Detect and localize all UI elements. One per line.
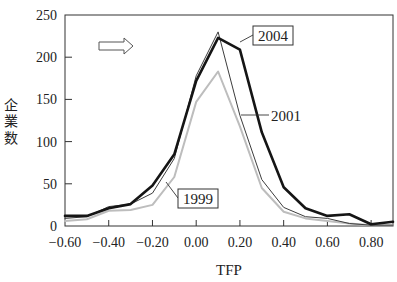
y-axis-title-char-3: 数 bbox=[4, 130, 18, 146]
x-axis: −0.60−0.40−0.200.000.200.400.600.80 bbox=[49, 220, 384, 250]
y-axis-title-char-1: 企 bbox=[4, 97, 18, 113]
annotation-2001: 2001 bbox=[241, 108, 301, 124]
x-tick-label: 0.00 bbox=[184, 235, 209, 250]
y-tick-label: 100 bbox=[36, 135, 57, 150]
series-lines bbox=[65, 32, 393, 225]
y-axis-title-char-2: 業 bbox=[4, 113, 18, 129]
y-tick-label: 250 bbox=[36, 8, 57, 23]
x-axis-title: TFP bbox=[216, 262, 242, 278]
annotation-1999: 1999 bbox=[166, 182, 218, 208]
tfp-distribution-chart: 050100150200250 −0.60−0.40−0.200.000.200… bbox=[0, 0, 397, 282]
x-tick-label: −0.20 bbox=[136, 235, 168, 250]
label-2004: 2004 bbox=[258, 28, 289, 44]
label-2001: 2001 bbox=[271, 108, 301, 124]
series-line-2004 bbox=[65, 38, 393, 225]
y-tick-label: 0 bbox=[50, 219, 57, 234]
x-tick-label: 0.40 bbox=[271, 235, 296, 250]
leader-line-1999 bbox=[166, 182, 178, 198]
x-tick-label: 0.20 bbox=[228, 235, 253, 250]
series-line-2001 bbox=[65, 32, 393, 225]
x-tick-label: −0.60 bbox=[49, 235, 81, 250]
y-tick-label: 50 bbox=[43, 177, 57, 192]
series-line-1999 bbox=[65, 72, 393, 226]
x-tick-label: −0.40 bbox=[93, 235, 125, 250]
x-tick-label: 0.60 bbox=[315, 235, 340, 250]
leader-line-2004 bbox=[240, 35, 253, 42]
y-axis-title: 企 業 数 bbox=[4, 97, 18, 146]
y-tick-label: 200 bbox=[36, 50, 57, 65]
x-tick-label: 0.80 bbox=[359, 235, 384, 250]
annotation-2004: 2004 bbox=[240, 26, 293, 45]
y-tick-label: 150 bbox=[36, 92, 57, 107]
label-1999: 1999 bbox=[183, 191, 213, 207]
right-arrow-icon bbox=[99, 38, 133, 54]
y-axis: 050100150200250 bbox=[36, 8, 72, 234]
